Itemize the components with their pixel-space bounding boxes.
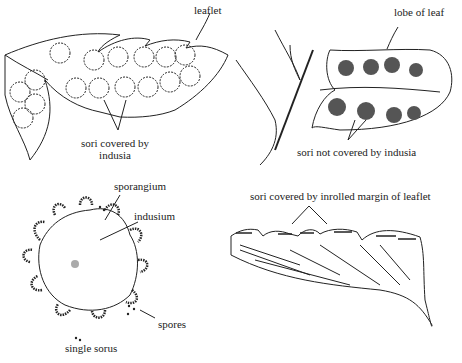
label-sori-indusia-line2: indusia xyxy=(80,149,150,161)
inrolled-leaflet-drawing xyxy=(231,206,432,326)
fern-sori-diagram xyxy=(0,0,462,363)
label-single-sorus: single sorus xyxy=(65,342,117,354)
label-sori-indusia-line1: sori covered by xyxy=(80,137,150,149)
label-indusium: indusium xyxy=(134,210,175,222)
indusia-sori xyxy=(10,43,200,128)
label-sori-indusia: sori covered by indusia xyxy=(80,137,150,161)
label-sporangium: sporangium xyxy=(114,180,166,192)
label-spores: spores xyxy=(158,318,186,330)
label-leaflet: leaflet xyxy=(194,4,221,16)
naked-sori xyxy=(328,57,423,123)
label-lobe-of-leaf: lobe of leaf xyxy=(394,6,444,18)
label-sori-not-covered: sori not covered by indusia xyxy=(297,146,416,158)
lobe-drawing xyxy=(236,27,452,165)
label-sori-inrolled: sori covered by inrolled margin of leafl… xyxy=(250,190,431,202)
